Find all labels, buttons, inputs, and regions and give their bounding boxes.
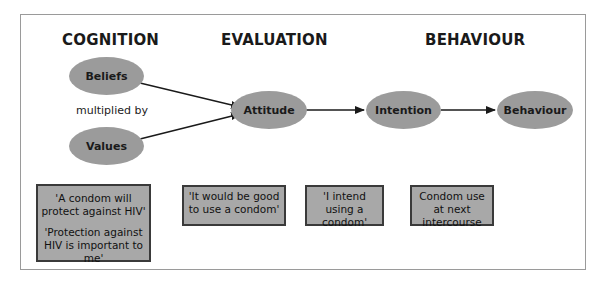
- evaluation-statement: 'It would be good to use a condom': [186, 190, 282, 216]
- box-evaluation: 'It would be good to use a condom': [182, 185, 286, 226]
- intention-statement: 'I intend using a condom': [309, 190, 380, 229]
- arrow-values-attitude: [140, 114, 240, 139]
- node-values: Values: [69, 127, 144, 165]
- behaviour-statement: Condom use at next intercourse: [414, 190, 490, 229]
- node-beliefs: Beliefs: [69, 57, 144, 95]
- multiplied-by-label: multiplied by: [76, 104, 148, 117]
- box-intention: 'I intend using a condom': [305, 185, 384, 226]
- node-intention: Intention: [366, 91, 441, 129]
- node-behaviour: Behaviour: [497, 91, 573, 129]
- box-cognition: 'A condom will protect against HIV' 'Pro…: [36, 184, 151, 262]
- belief-statement: 'A condom will protect against HIV': [40, 192, 147, 218]
- arrow-beliefs-attitude: [140, 83, 240, 107]
- value-statement: 'Protection against HIV is important to …: [40, 226, 147, 265]
- box-behaviour: Condom use at next intercourse: [410, 185, 494, 226]
- node-attitude: Attitude: [231, 91, 307, 129]
